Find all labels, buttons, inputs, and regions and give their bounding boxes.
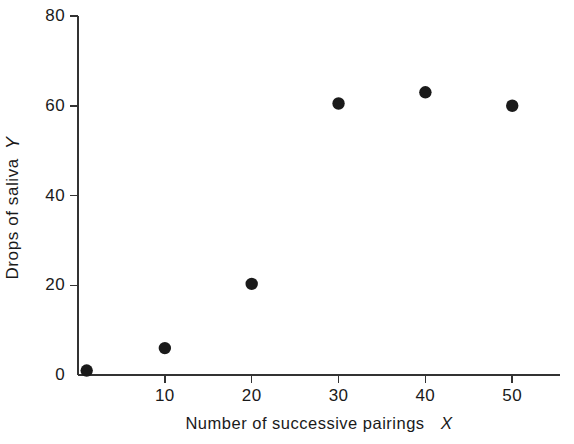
- plot-area: [0, 0, 574, 444]
- data-point: [506, 100, 518, 112]
- data-point: [245, 278, 257, 290]
- data-point: [80, 364, 92, 376]
- y-axis-label: Drops of saliva Y: [0, 18, 26, 398]
- y-tick-label: 20: [45, 275, 65, 295]
- data-point: [332, 97, 344, 109]
- data-points: [80, 86, 518, 377]
- y-tick-label: 0: [55, 365, 65, 385]
- data-point: [159, 342, 171, 354]
- x-tick-label: 20: [242, 386, 262, 406]
- x-tick-label: 30: [329, 386, 349, 406]
- y-tick-label: 80: [45, 6, 65, 26]
- x-tick-label: 50: [502, 386, 522, 406]
- scatter-chart: 0204060801020304050 Drops of saliva Y Nu…: [0, 0, 574, 444]
- y-axis-label-text: Drops of saliva: [3, 158, 23, 279]
- data-point: [419, 86, 431, 98]
- axis-lines: [78, 16, 560, 375]
- axis-ticks: [70, 16, 512, 383]
- x-tick-label: 40: [416, 386, 436, 406]
- x-tick-label: 10: [155, 386, 175, 406]
- y-axis-variable: Y: [3, 136, 24, 149]
- y-tick-label: 60: [45, 96, 65, 116]
- x-axis-variable: X: [441, 414, 453, 433]
- y-tick-label: 40: [45, 186, 65, 206]
- x-axis-label-text: Number of successive pairings: [185, 414, 424, 432]
- x-axis-label: Number of successive pairings X: [78, 414, 560, 434]
